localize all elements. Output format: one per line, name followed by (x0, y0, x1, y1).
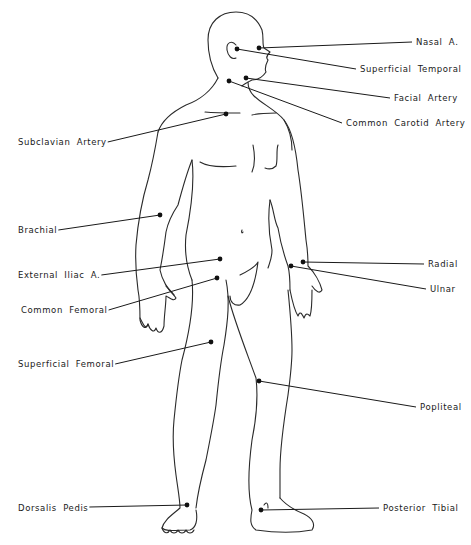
popliteal-leader-line (259, 381, 416, 407)
torso-left (185, 160, 192, 280)
common-carotid-label: Common Carotid Artery (346, 118, 465, 128)
pulse-points-diagram: Nasal A.Superficial TemporalFacial Arter… (0, 0, 471, 545)
radial-pulse-dot (301, 260, 306, 265)
nasal-label: Nasal A. (416, 37, 458, 47)
facial-artery-pulse-dot (244, 76, 249, 81)
popliteal-label: Popliteal (420, 402, 462, 412)
dorsalis-pedis-pulse-dot (185, 503, 190, 508)
left-hand (140, 286, 176, 332)
neck-right (248, 82, 292, 150)
brachial-label: Brachial (18, 225, 57, 235)
groin (230, 262, 258, 305)
chest-right (265, 145, 278, 169)
torso-right (268, 200, 272, 268)
facial-artery-label: Facial Artery (394, 93, 458, 103)
external-iliac-label: External Iliac A. (18, 270, 100, 280)
posterior-tibial-leader-line (261, 508, 379, 510)
nasal-leader-line (259, 42, 412, 48)
left-leg-inner (196, 280, 228, 508)
posterior-tibial-label: Posterior Tibial (383, 503, 459, 513)
superficial-femoral-leader-line (115, 342, 211, 364)
common-carotid-leader-line (229, 81, 342, 123)
right-leg-inner (228, 296, 314, 532)
subclavian-label: Subclavian Artery (18, 137, 107, 147)
common-femoral-label: Common Femoral (21, 305, 108, 315)
clavicle-right (252, 113, 276, 115)
leader-lines (58, 42, 426, 512)
brachial-leader-line (58, 215, 160, 230)
clavicle-left (205, 112, 240, 113)
superficial-femoral-label: Superficial Femoral (18, 359, 114, 369)
superficial-temporal-leader-line (237, 49, 356, 69)
ulnar-label: Ulnar (430, 284, 456, 294)
radial-leader-line (303, 262, 424, 264)
right-leg-outer (280, 290, 292, 498)
chest-line (200, 162, 236, 167)
common-carotid-pulse-dot (227, 79, 232, 84)
right-hand (290, 290, 312, 318)
left-leg-outer (162, 280, 197, 531)
sternum-line (252, 145, 254, 172)
common-femoral-pulse-dot (215, 276, 220, 281)
dorsalis-pedis-label: Dorsalis Pedis (18, 503, 88, 513)
neck-left (158, 78, 218, 132)
ulnar-leader-line (291, 266, 426, 289)
dorsalis-pedis-leader-line (89, 505, 187, 507)
superficial-femoral-pulse-dot (209, 340, 214, 345)
superficial-temporal-label: Superficial Temporal (360, 64, 461, 74)
nasal-pulse-dot (257, 46, 262, 51)
posterior-tibial-pulse-dot (259, 508, 264, 513)
ulnar-pulse-dot (289, 264, 294, 269)
subclavian-pulse-dot (224, 112, 229, 117)
common-femoral-leader-line (109, 278, 217, 310)
popliteal-pulse-dot (257, 379, 262, 384)
left-arm-outer (136, 132, 158, 327)
ear-outline (227, 42, 236, 58)
navel (242, 230, 243, 233)
brachial-pulse-dot (158, 213, 163, 218)
right-arm-inner (270, 200, 290, 290)
radial-label: Radial (428, 259, 458, 269)
right-ankle-mark (264, 503, 268, 508)
superficial-temporal-pulse-dot (235, 47, 240, 52)
external-iliac-pulse-dot (218, 257, 223, 262)
